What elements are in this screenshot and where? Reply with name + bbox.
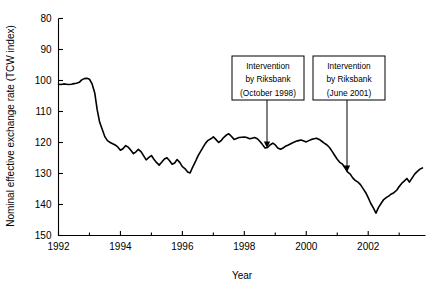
chart-figure: 8090100110120130140150 19921994199619982…	[0, 0, 438, 290]
y-tick-label: 90	[40, 44, 52, 55]
x-tick-label: 1996	[171, 241, 194, 252]
annotation-label: Intervention	[246, 61, 290, 71]
y-tick-labels: 8090100110120130140150	[35, 13, 52, 241]
annotation-label: by Riksbank	[245, 74, 291, 84]
y-tick-label: 100	[35, 75, 52, 86]
nominal-effective-exchange-rate-chart: 8090100110120130140150 19921994199619982…	[0, 0, 438, 290]
y-tick-label: 130	[35, 168, 52, 179]
y-tick-label: 80	[40, 13, 52, 24]
x-tick-label: 2000	[295, 241, 318, 252]
y-tick-label: 120	[35, 137, 52, 148]
x-tick-label: 1994	[109, 241, 132, 252]
y-axis-title: Nominal effective exchange rate (TCW ind…	[5, 25, 16, 227]
annotation-label: (June 2001)	[327, 88, 372, 98]
annotation-label: by Riksbank	[326, 74, 372, 84]
x-tick-label: 1992	[47, 241, 70, 252]
y-tick-label: 140	[35, 199, 52, 210]
x-axis-title: Year	[232, 270, 253, 281]
y-tick-label: 150	[35, 230, 52, 241]
annotation-label: Intervention	[327, 61, 371, 71]
x-tick-label: 1998	[233, 241, 256, 252]
y-tick-label: 110	[36, 106, 52, 117]
x-tick-label: 2002	[357, 241, 380, 252]
annotation-label: (October 1998)	[240, 88, 296, 98]
annotations-group: Interventionby Riksbank(October 1998)Int…	[232, 56, 385, 172]
x-tick-labels: 199219941996199820002002	[47, 241, 379, 252]
